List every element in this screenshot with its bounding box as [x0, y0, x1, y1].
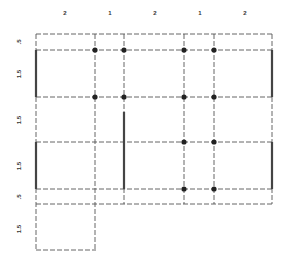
node-dot-icon — [121, 47, 126, 52]
row-label: 1.5 — [16, 69, 22, 78]
row-label: .5 — [16, 39, 22, 45]
grid-lines — [36, 34, 272, 250]
node-dot-icon — [181, 139, 186, 144]
row-labels: .5 1.5 1.5 1.5 .5 1.5 — [16, 39, 22, 233]
row-label: 1.5 — [16, 224, 22, 233]
row-label: 1.5 — [16, 115, 22, 124]
column-nodes — [92, 47, 216, 191]
node-dot-icon — [92, 47, 97, 52]
node-dot-icon — [181, 186, 186, 191]
column-label: 2 — [153, 10, 157, 16]
row-label: .5 — [16, 194, 22, 200]
node-dot-icon — [211, 139, 216, 144]
column-label: 2 — [63, 10, 67, 16]
structural-grid-diagram: 2 1 2 1 2 .5 1.5 1.5 1.5 .5 1.5 — [0, 0, 289, 266]
column-label: 1 — [198, 10, 202, 16]
row-label: 1.5 — [16, 161, 22, 170]
node-dot-icon — [181, 94, 186, 99]
node-dot-icon — [181, 47, 186, 52]
column-label: 2 — [243, 10, 247, 16]
column-label: 1 — [108, 10, 112, 16]
wall-segments — [36, 50, 272, 189]
node-dot-icon — [121, 94, 126, 99]
node-dot-icon — [92, 94, 97, 99]
node-dot-icon — [211, 186, 216, 191]
node-dot-icon — [211, 47, 216, 52]
node-dot-icon — [211, 94, 216, 99]
column-labels: 2 1 2 1 2 — [63, 10, 247, 16]
